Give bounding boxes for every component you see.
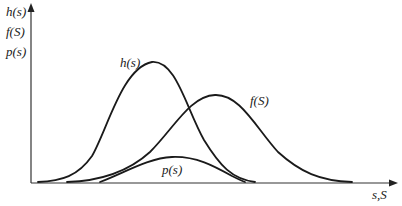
curve-label-f: f(S) [250,94,269,107]
curve-label-h: h(s) [120,56,140,69]
y-axis-label-h: h(s) [6,5,26,18]
plot-canvas [0,0,402,206]
y-axis-label-p: p(s) [6,45,26,58]
density-curves-figure: h(s) f(S) p(s) h(s) f(S) p(s) s,S [0,0,402,206]
x-axis-arrow-icon [389,180,398,187]
curve-f [67,95,352,182]
curve-h [38,62,255,182]
y-axis-arrow-icon [28,3,35,12]
curve-label-p: p(s) [162,163,182,176]
x-axis-label: s,S [372,188,387,201]
y-axis-label-f: f(S) [6,25,25,38]
